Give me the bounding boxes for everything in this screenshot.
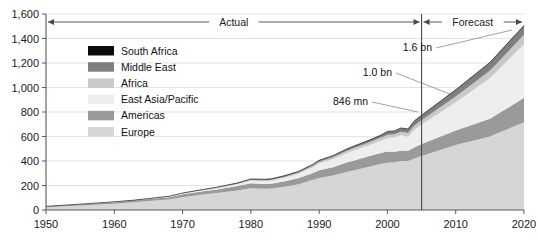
y-axis-tick-label: 1,200 bbox=[11, 57, 39, 69]
legend-group: South AfricaMiddle EastAfricaEast Asia/P… bbox=[88, 45, 199, 138]
annotation-leader-1 bbox=[396, 73, 455, 96]
phase-arrowhead-right-1 bbox=[516, 19, 522, 25]
x-axis-tick-label: 1970 bbox=[170, 218, 194, 230]
legend-swatch-south-africa bbox=[88, 46, 114, 56]
legend-label-europe: Europe bbox=[121, 126, 155, 138]
y-axis-tick-label: 1,600 bbox=[11, 8, 39, 20]
legend-label-africa: Africa bbox=[121, 77, 148, 89]
phase-arrowhead-left-0 bbox=[48, 19, 54, 25]
legend-swatch-middle-east bbox=[88, 62, 114, 71]
phase-label-forecast: Forecast bbox=[452, 16, 493, 28]
phase-arrowhead-right-0 bbox=[414, 19, 420, 25]
y-axis-tick-label: 200 bbox=[21, 180, 39, 192]
legend-swatch-americas bbox=[88, 111, 114, 121]
series-areas-group bbox=[46, 26, 524, 210]
x-axis-tick-label: 2020 bbox=[512, 218, 536, 230]
y-axis-tick-label: 1,400 bbox=[11, 33, 39, 45]
annotation-leader-0 bbox=[372, 102, 418, 112]
legend-label-middle-east: Middle East bbox=[121, 61, 176, 73]
annotation-label-1-6-bn: 1.6 bn bbox=[403, 41, 432, 53]
legend-label-south-africa: South Africa bbox=[121, 45, 178, 57]
annotation-leader-2 bbox=[436, 30, 512, 48]
y-axis-tick-label: 1,000 bbox=[11, 82, 39, 94]
legend-label-east-asia-pacific: East Asia/Pacific bbox=[121, 93, 199, 105]
x-axis-tick-label: 2000 bbox=[375, 218, 399, 230]
x-axis-tick-label: 2010 bbox=[443, 218, 467, 230]
phase-annotations-group: ActualForecast bbox=[48, 16, 522, 28]
phase-arrowhead-left-1 bbox=[424, 19, 430, 25]
x-axis-tick-label: 1960 bbox=[102, 218, 126, 230]
stacked-area-chart: ActualForecast 846 mn1.0 bn1.6 bn South … bbox=[0, 0, 538, 240]
y-axis-tick-label: 600 bbox=[21, 131, 39, 143]
legend-label-americas: Americas bbox=[121, 109, 165, 121]
x-axis-tick-label: 1990 bbox=[307, 218, 331, 230]
y-axis-tick-label: 0 bbox=[33, 204, 39, 216]
chart-container: ActualForecast 846 mn1.0 bn1.6 bn South … bbox=[0, 0, 538, 240]
y-axis-tick-label: 400 bbox=[21, 155, 39, 167]
y-axis-tick-label: 800 bbox=[21, 106, 39, 118]
legend-swatch-africa bbox=[88, 78, 114, 88]
annotation-label-846-mn: 846 mn bbox=[333, 95, 368, 107]
phase-label-actual: Actual bbox=[219, 16, 248, 28]
annotation-label-1-0-bn: 1.0 bn bbox=[363, 66, 392, 78]
legend-swatch-east-asia-pacific bbox=[88, 95, 114, 105]
x-axis-tick-label: 1950 bbox=[34, 218, 58, 230]
x-axis-tick-label: 1980 bbox=[239, 218, 263, 230]
legend-swatch-europe bbox=[88, 127, 114, 137]
